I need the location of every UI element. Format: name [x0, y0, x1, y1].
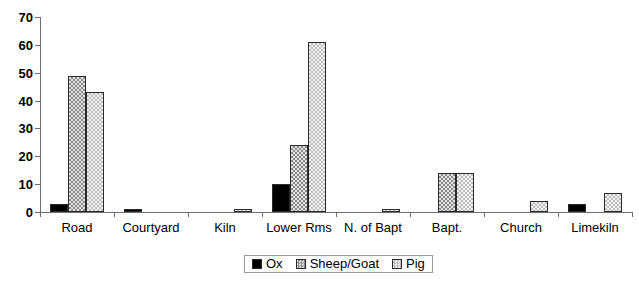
y-axis-tick-label: 20 [19, 150, 33, 163]
y-axis-tick-label: 40 [19, 94, 33, 107]
y-axis-tick-label: 50 [19, 66, 33, 79]
y-axis-tick-mark [35, 101, 40, 102]
x-axis-tick-mark [558, 212, 559, 217]
chart-legend: OxSheep/GoatPig [244, 255, 433, 273]
x-axis-tick-mark [632, 212, 633, 217]
y-axis-tick-mark [35, 17, 40, 18]
bar-pig [456, 173, 474, 212]
x-axis-tick-mark [114, 212, 115, 217]
x-axis-tick-mark [262, 212, 263, 217]
legend-label: Ox [266, 257, 283, 270]
legend-item-ox: Ox [252, 257, 283, 270]
bar-pig [234, 209, 252, 212]
y-axis-tick-mark [35, 128, 40, 129]
x-axis-label-church: Church [484, 221, 558, 235]
y-axis-tick-mark [35, 73, 40, 74]
bar-pig [382, 209, 400, 212]
x-axis-tick-mark [188, 212, 189, 217]
legend-label: Pig [406, 257, 425, 270]
bar-chart: 010203040506070 RoadCourtyardKilnLower R… [0, 0, 639, 288]
legend-item-pig: Pig [392, 257, 425, 270]
x-axis-tick-mark [410, 212, 411, 217]
y-axis-tick-label: 10 [19, 178, 33, 191]
bar-ox [50, 204, 68, 212]
y-axis-tick-mark [35, 184, 40, 185]
x-axis-tick-mark [40, 212, 41, 217]
x-axis-label-road: Road [40, 221, 114, 235]
x-axis-label-courtyard: Courtyard [114, 221, 188, 235]
x-axis-label-lower-rms: Lower Rms [262, 221, 336, 235]
bar-sheep [438, 173, 456, 212]
bar-ox [568, 204, 586, 212]
bar-sheep [68, 76, 86, 213]
legend-item-sheep: Sheep/Goat [296, 257, 379, 270]
y-axis-tick-label: 30 [19, 122, 33, 135]
legend-swatch-ox-icon [252, 259, 262, 269]
x-axis-label-bapt: Bapt. [410, 221, 484, 235]
bar-ox [272, 184, 290, 212]
x-axis-tick-mark [484, 212, 485, 217]
bar-pig [604, 193, 622, 213]
legend-swatch-sheep-icon [296, 259, 306, 269]
bar-sheep [290, 145, 308, 212]
legend-swatch-pig-icon [392, 259, 402, 269]
plot-area [40, 17, 632, 212]
x-axis-label-n-of-bapt: N. of Bapt [336, 221, 410, 235]
legend-label: Sheep/Goat [310, 257, 379, 270]
y-axis-tick-label: 60 [19, 38, 33, 51]
x-axis-tick-mark [336, 212, 337, 217]
x-axis-label-limekiln: Limekiln [558, 221, 632, 235]
bar-ox [124, 209, 142, 212]
bar-pig [530, 201, 548, 212]
y-axis-tick-label: 70 [19, 11, 33, 24]
y-axis-tick-mark [35, 156, 40, 157]
bar-pig [308, 42, 326, 212]
bar-pig [86, 92, 104, 212]
y-axis-tick-mark [35, 45, 40, 46]
y-axis-tick-label: 0 [26, 206, 33, 219]
x-axis-label-kiln: Kiln [188, 221, 262, 235]
